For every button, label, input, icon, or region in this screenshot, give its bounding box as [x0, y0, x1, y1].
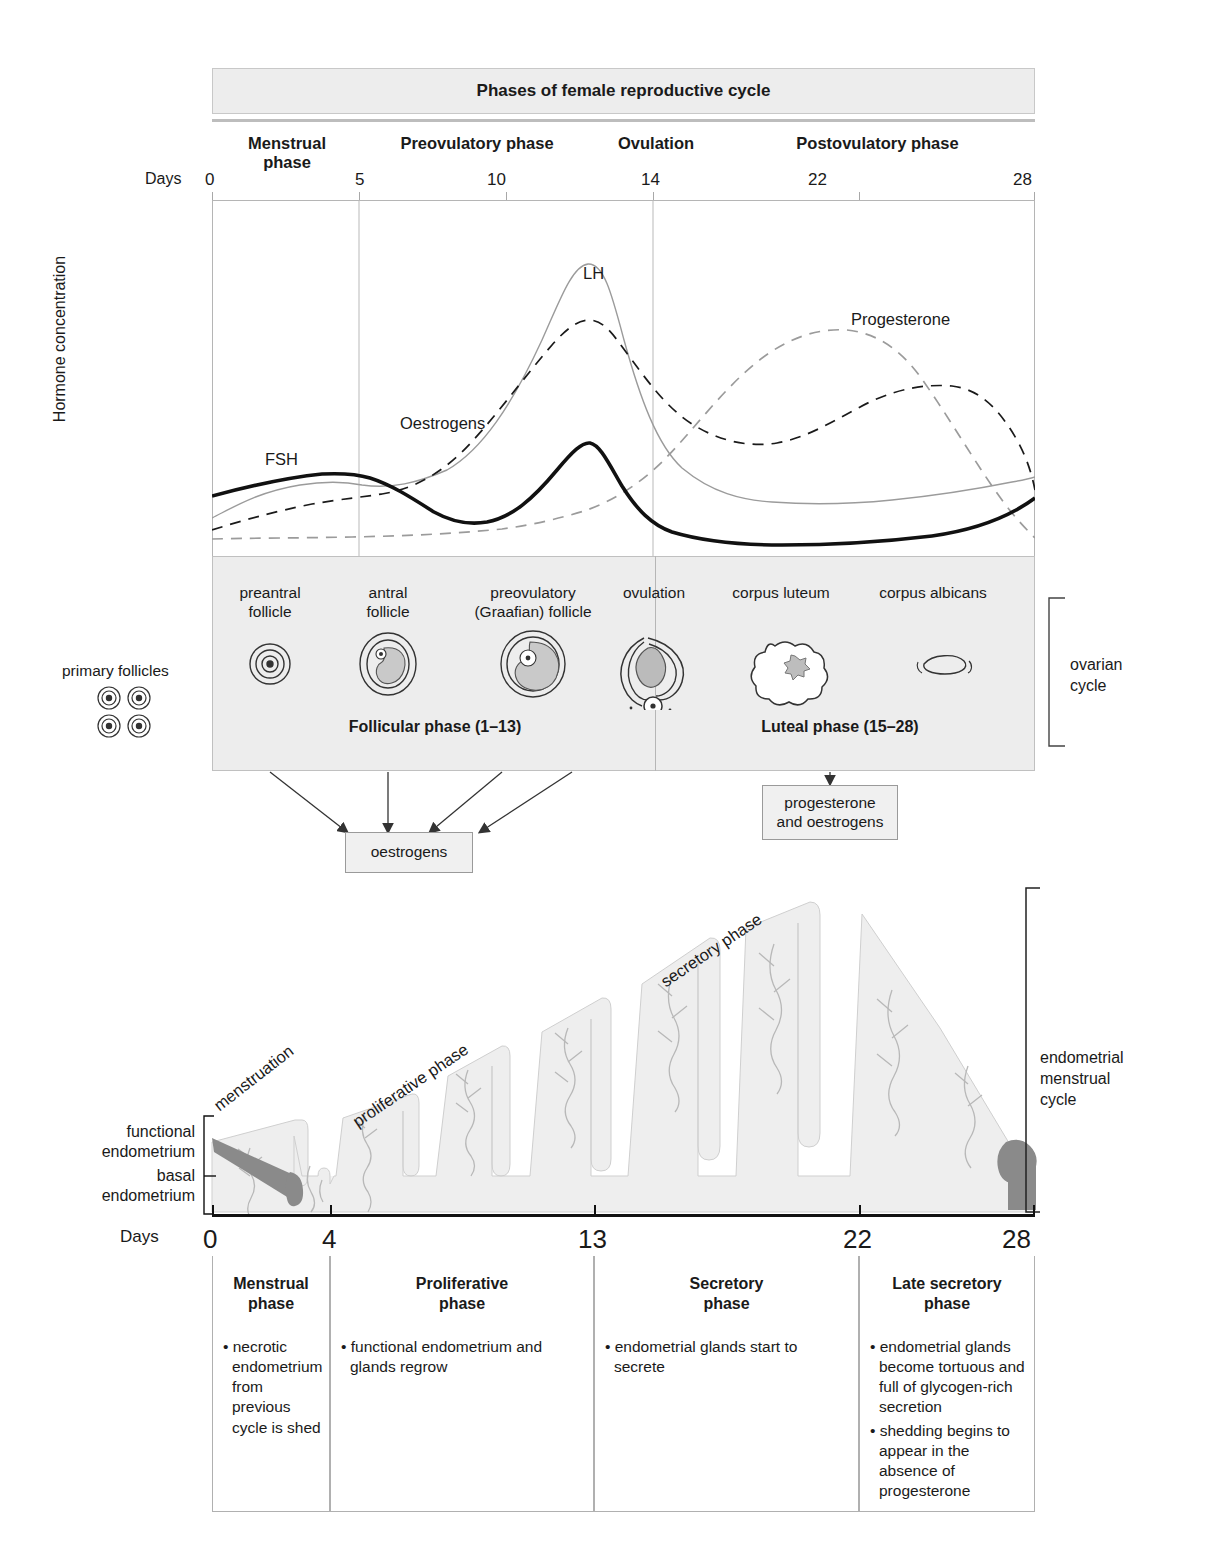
phases-banner-title: Phases of female reproductive cycle — [477, 81, 771, 101]
ovarian-cycle-bracket-label: ovarian cycle — [1070, 655, 1122, 697]
endometrial-phase-table: Menstrual phase necrotic endometrium fro… — [212, 1256, 1035, 1512]
column-title: Secretory phase — [595, 1274, 858, 1313]
corpus-luteum-icon — [751, 642, 827, 705]
ovarian-stage-corpus-luteum: corpus luteum — [706, 584, 856, 603]
bullet-item: endometrial glands become tortuous and f… — [870, 1337, 1026, 1418]
column-bullets: endometrial glands start to secrete — [595, 1337, 858, 1377]
top-daytick-10: 10 — [487, 170, 506, 190]
bottom-tick-mark — [859, 1205, 861, 1215]
phase-label-preovulatory: Preovulatory phase — [362, 134, 592, 153]
bullet-item: shedding begins to appear in the absence… — [870, 1421, 1026, 1502]
curve-label-lh: LH — [583, 264, 604, 283]
phase-label-menstrual: Menstrual phase — [212, 134, 362, 173]
basal-endometrium-label: basal endometrium — [40, 1166, 195, 1205]
bottom-daytick-0: 0 — [203, 1224, 217, 1255]
top-daytick-22: 22 — [808, 170, 827, 190]
bottom-axis-line — [212, 1214, 1035, 1217]
ovarian-stage-antral-follicle: antral follicle — [330, 584, 446, 621]
antral-follicle-icon — [360, 633, 416, 695]
ovarian-stage-preovulatory-follicle: preovulatory (Graafian) follicle — [444, 584, 622, 621]
bottom-tick-mark — [212, 1205, 214, 1215]
phase-label-postovulatory: Postovulatory phase — [720, 134, 1035, 153]
curve-progesterone — [212, 330, 1035, 539]
endometrium-tissue — [212, 902, 1035, 1212]
endometrium-layer-bracket — [198, 1114, 224, 1218]
column-bullets: necrotic endometrium from previous cycle… — [213, 1337, 329, 1438]
curve-label-fsh: FSH — [265, 450, 298, 469]
oestrogens-output-box: oestrogens — [345, 832, 473, 873]
luteal-phase-label: Luteal phase (15–28) — [660, 718, 1020, 736]
column-bullets: endometrial glands become tortuous and f… — [860, 1337, 1034, 1501]
bottom-tick-mark — [594, 1205, 596, 1215]
hormone-chart — [212, 200, 1035, 556]
bullet-item: endometrial glands start to secrete — [605, 1337, 850, 1377]
table-column-menstrual: Menstrual phase necrotic endometrium fro… — [212, 1256, 330, 1512]
banner-underline — [212, 119, 1035, 122]
table-column-late-secretory: Late secretory phase endometrial glands … — [859, 1256, 1035, 1512]
primary-follicles-icon — [95, 684, 165, 740]
progesterone-output-box: progesterone and oestrogens — [762, 785, 898, 840]
bottom-tick-mark — [1033, 1205, 1035, 1215]
preovulatory-follicle-icon — [501, 631, 565, 697]
top-daytick-5: 5 — [355, 170, 364, 190]
curve-fsh — [212, 443, 1035, 545]
ovulation-icon — [621, 638, 683, 710]
endometrial-cycle-bracket-label: endometrial menstrual cycle — [1040, 1048, 1124, 1110]
table-column-secretory: Secretory phase endometrial glands start… — [594, 1256, 859, 1512]
top-daytick-28: 28 — [1013, 170, 1032, 190]
column-title: Proliferative phase — [331, 1274, 593, 1313]
column-title: Menstrual phase — [213, 1274, 329, 1313]
curve-lh — [212, 264, 1035, 518]
ovarian-stage-ovulation: ovulation — [598, 584, 710, 603]
bottom-daytick-22: 22 — [843, 1224, 872, 1255]
flow-arrows — [212, 770, 1035, 870]
top-daytick-0: 0 — [205, 170, 214, 190]
bottom-daytick-13: 13 — [578, 1224, 607, 1255]
ovarian-stage-preantral-follicle: preantral follicle — [208, 584, 332, 621]
functional-endometrium-label: functional endometrium — [40, 1122, 195, 1161]
top-days-label: Days — [145, 170, 181, 188]
follicular-phase-label: Follicular phase (1–13) — [240, 718, 630, 736]
bottom-tick-mark — [330, 1205, 332, 1215]
bottom-daytick-28: 28 — [1002, 1224, 1031, 1255]
corpus-albicans-icon — [917, 656, 971, 674]
phase-label-ovulation: Ovulation — [592, 134, 720, 153]
bottom-days-label: Days — [120, 1227, 159, 1247]
hormone-chart-ylabel: Hormone concentration — [51, 219, 69, 459]
table-column-proliferative: Proliferative phase functional endometri… — [330, 1256, 594, 1512]
bottom-daytick-4: 4 — [322, 1224, 336, 1255]
bullet-item: necrotic endometrium from previous cycle… — [223, 1337, 321, 1438]
curve-label-oestrogens: Oestrogens — [400, 414, 485, 433]
curve-label-progesterone: Progesterone — [851, 310, 950, 329]
bullet-item: functional endometrium and glands regrow — [341, 1337, 585, 1377]
follicle-icons-row — [212, 630, 1035, 710]
preantral-follicle-icon — [250, 644, 290, 684]
primary-follicles-label: primary follicles — [62, 662, 169, 680]
top-daytick-14: 14 — [641, 170, 660, 190]
ovarian-stage-corpus-albicans: corpus albicans — [857, 584, 1009, 603]
column-bullets: functional endometrium and glands regrow — [331, 1337, 593, 1377]
phases-banner: Phases of female reproductive cycle — [212, 68, 1035, 114]
column-title: Late secretory phase — [860, 1274, 1034, 1313]
